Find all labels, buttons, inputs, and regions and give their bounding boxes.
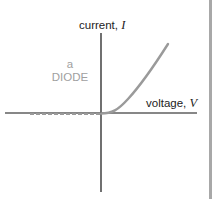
x-axis-label: voltage, V bbox=[146, 96, 197, 111]
device-label: a DIODE bbox=[44, 58, 96, 84]
y-axis-label: current, I bbox=[79, 18, 125, 33]
device-article: a bbox=[44, 58, 96, 71]
page-border bbox=[209, 0, 212, 199]
x-axis-label-text: voltage, bbox=[146, 97, 186, 109]
y-axis-label-text: current, bbox=[79, 19, 118, 31]
device-name: DIODE bbox=[44, 71, 96, 84]
y-axis-symbol: I bbox=[121, 18, 125, 32]
x-axis-symbol: V bbox=[189, 96, 197, 110]
